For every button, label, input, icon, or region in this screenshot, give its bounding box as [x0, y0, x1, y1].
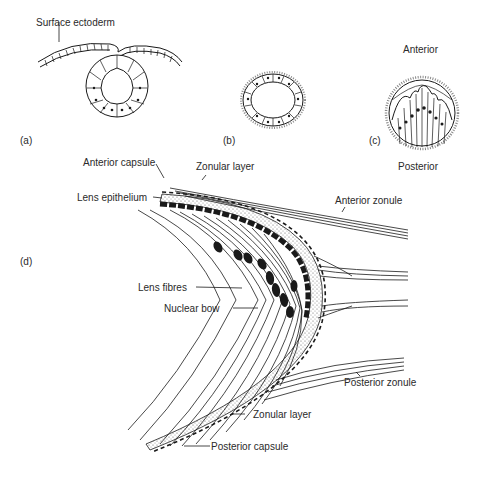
label-posterior-zonule: Posterior zonule: [344, 378, 416, 388]
panel-b-lens-vesicle: [241, 72, 305, 128]
lens-development-diagram: [0, 0, 484, 478]
panel-a-lens-pit: [38, 22, 182, 117]
panel-label-d: (d): [20, 257, 32, 267]
label-anterior: Anterior: [403, 45, 438, 55]
panel-label-a: (a): [20, 136, 32, 146]
label-posterior-capsule: Posterior capsule: [211, 442, 288, 452]
label-lens-fibres: Lens fibres: [138, 283, 187, 293]
label-anterior-zonule: Anterior zonule: [335, 196, 402, 206]
label-lens-epithelium: Lens epithelium: [77, 193, 147, 203]
panel-label-b: (b): [223, 136, 235, 146]
label-zonular-layer-top: Zonular layer: [196, 162, 254, 172]
label-anterior-capsule: Anterior capsule: [83, 158, 155, 168]
label-posterior: Posterior: [398, 162, 438, 172]
label-nuclear-bow: Nuclear bow: [164, 304, 220, 314]
panel-label-c: (c): [369, 136, 381, 146]
panel-c-primary-fibres: [386, 77, 458, 149]
label-surface-ectoderm: Surface ectoderm: [36, 18, 115, 28]
label-zonular-layer-bottom: Zonular layer: [253, 410, 311, 420]
